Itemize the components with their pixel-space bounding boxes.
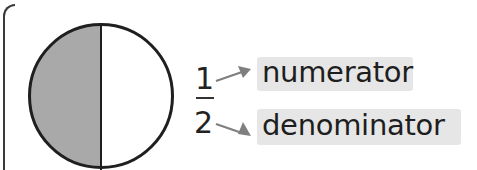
numerator-label: numerator bbox=[262, 58, 413, 87]
arrow-to-numerator-icon bbox=[216, 66, 251, 81]
denominator-label: denominator bbox=[262, 111, 445, 140]
arrow-to-denominator-icon bbox=[216, 122, 251, 136]
